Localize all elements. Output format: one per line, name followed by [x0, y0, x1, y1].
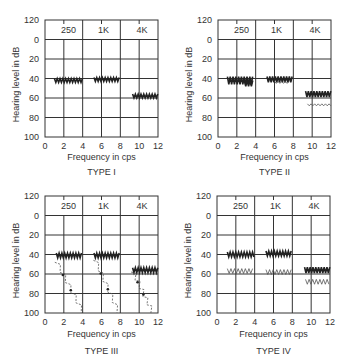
y-axis-label: Hearing level in dB: [183, 223, 193, 299]
x-tick-label: 0: [214, 317, 219, 327]
trace-4k-continuous: [306, 91, 331, 97]
x-tick-label: 6: [99, 141, 104, 151]
audiogram-figure: 1200204060801000246810122501K4KHearing l…: [0, 0, 347, 363]
x-tick-label: 8: [118, 141, 123, 151]
x-tick-label: 6: [271, 317, 276, 327]
trace-250-continuous: [54, 79, 82, 83]
panel-1: 1200204060801000246810122501K4KHearing l…: [11, 15, 163, 177]
x-tick-label: 0: [42, 141, 47, 151]
frequency-band-label: 250: [234, 25, 249, 35]
frequency-band-label: 4K: [308, 201, 319, 211]
x-axis-label: Frequency in cps: [67, 329, 136, 339]
x-tick-label: 0: [42, 317, 47, 327]
y-tick-label: 20: [202, 54, 212, 64]
x-tick-label: 8: [291, 141, 296, 151]
trace-4k-continuous: [133, 268, 158, 273]
trace-4k-continuous: [133, 94, 158, 98]
y-tick-label: 0: [34, 211, 39, 221]
x-tick-label: 6: [272, 141, 277, 151]
x-tick-label: 6: [99, 317, 104, 327]
y-tick-label: 60: [201, 269, 211, 279]
trace-250-continuous: [56, 253, 81, 258]
y-tick-label: 0: [206, 211, 211, 221]
x-axis-label: Frequency in cps: [67, 152, 136, 162]
trace-4k-pulsed: [306, 279, 329, 284]
panel-3: 1200204060801000246810122501K4KHearing l…: [11, 191, 163, 356]
panel-2: 1200204060801000246810122501K4KHearing l…: [184, 15, 336, 177]
y-tick-label: 20: [29, 54, 39, 64]
x-axis-label: Frequency in cps: [240, 152, 309, 162]
x-tick-label: 8: [290, 317, 295, 327]
x-tick-label: 2: [61, 141, 66, 151]
y-tick-label: 40: [29, 74, 39, 84]
frequency-band-label: 250: [61, 25, 76, 35]
x-tick-label: 0: [215, 141, 220, 151]
trace-marker: [142, 293, 145, 296]
x-tick-label: 10: [306, 317, 316, 327]
trace-4k-pulsed-decay: [131, 272, 152, 313]
frequency-band-label: 1K: [271, 25, 282, 35]
frequency-band-label: 4K: [136, 201, 147, 211]
y-axis-label: Hearing level in dB: [11, 223, 21, 299]
panel-title: TYPE II: [259, 167, 290, 177]
y-tick-label: 120: [24, 191, 39, 201]
y-tick-label: 40: [202, 74, 212, 84]
y-tick-label: 40: [29, 250, 39, 260]
panel-title: TYPE I: [87, 167, 116, 177]
trace-4k-continuous: [305, 267, 330, 273]
y-tick-label: 100: [24, 132, 39, 142]
y-tick-label: 100: [24, 308, 39, 318]
trace-250-pulsed: [227, 269, 252, 274]
y-tick-label: 100: [197, 132, 212, 142]
y-tick-label: 20: [201, 230, 211, 240]
x-tick-label: 10: [307, 141, 317, 151]
x-tick-label: 2: [61, 317, 66, 327]
x-tick-label: 12: [326, 141, 336, 151]
y-tick-label: 120: [197, 15, 212, 25]
x-tick-label: 12: [153, 141, 163, 151]
panel-title: TYPE IV: [256, 346, 291, 356]
y-tick-label: 60: [202, 93, 212, 103]
y-tick-label: 80: [29, 113, 39, 123]
frequency-band-label: 4K: [309, 25, 320, 35]
x-tick-label: 10: [134, 317, 144, 327]
audiogram-chart: 1200204060801000246810122501K4KHearing l…: [0, 0, 347, 363]
x-tick-label: 4: [252, 317, 257, 327]
y-tick-label: 20: [29, 230, 39, 240]
x-tick-label: 10: [134, 141, 144, 151]
trace-250-continuous: [227, 252, 254, 257]
trace-marker: [62, 274, 65, 277]
y-tick-label: 60: [29, 269, 39, 279]
y-tick-label: 0: [207, 35, 212, 45]
y-tick-label: 80: [202, 113, 212, 123]
y-tick-label: 100: [196, 308, 211, 318]
trace-marker: [99, 272, 102, 275]
y-tick-label: 0: [34, 35, 39, 45]
frequency-band-label: 250: [233, 201, 248, 211]
x-tick-label: 4: [80, 317, 85, 327]
frequency-band-label: 1K: [270, 201, 281, 211]
x-tick-label: 4: [80, 141, 85, 151]
x-tick-label: 12: [325, 317, 335, 327]
x-tick-label: 8: [118, 317, 123, 327]
x-tick-label: 2: [234, 141, 239, 151]
y-tick-label: 60: [29, 93, 39, 103]
panel-title: TYPE III: [85, 346, 119, 356]
frequency-band-label: 250: [61, 201, 76, 211]
y-axis-label: Hearing level in dB: [184, 47, 194, 123]
x-tick-label: 12: [153, 317, 163, 327]
panel-4: 1200204060801000246810122501K4KHearing l…: [183, 191, 335, 356]
y-tick-label: 120: [24, 15, 39, 25]
y-tick-label: 80: [29, 289, 39, 299]
x-tick-label: 4: [253, 141, 258, 151]
trace-1k-continuous: [94, 253, 119, 258]
trace-4k-pulsed: [307, 104, 330, 106]
y-axis-label: Hearing level in dB: [11, 47, 21, 123]
trace-marker: [107, 288, 110, 291]
y-tick-label: 40: [201, 250, 211, 260]
y-tick-label: 80: [201, 289, 211, 299]
frequency-band-label: 1K: [98, 25, 109, 35]
x-axis-label: Frequency in cps: [239, 329, 308, 339]
y-tick-label: 120: [196, 191, 211, 201]
x-tick-label: 2: [233, 317, 238, 327]
